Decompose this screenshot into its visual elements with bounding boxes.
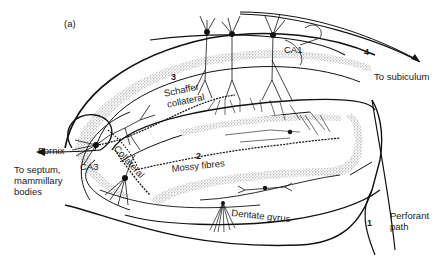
output-label-to-septum-line3: bodies [14, 186, 42, 197]
step-number-4: 4 [364, 47, 369, 57]
output-label-to-subiculum: To subiculum [374, 71, 429, 82]
arrowhead-subiculum [411, 54, 420, 62]
mossy-fibres-axon [135, 138, 340, 170]
step-number-1: 1 [367, 218, 372, 228]
pathway-label-fornix: Fornix [38, 145, 64, 156]
region-label-ca3: CA3 [80, 161, 98, 172]
region-label-ca1: CA1 [284, 44, 302, 55]
dg-granule-band [180, 114, 342, 136]
output-label-to-septum-line1: To septum, [14, 164, 60, 175]
pathway-label-perforant-line2: path [390, 221, 409, 232]
output-label-to-septum-line2: mammillary [14, 175, 63, 186]
step-number-3: 3 [171, 72, 176, 82]
pathway-label-perforant-line1: Perforant [390, 210, 429, 221]
panel-label: (a) [64, 18, 76, 29]
hippocampus-diagram [0, 0, 444, 267]
